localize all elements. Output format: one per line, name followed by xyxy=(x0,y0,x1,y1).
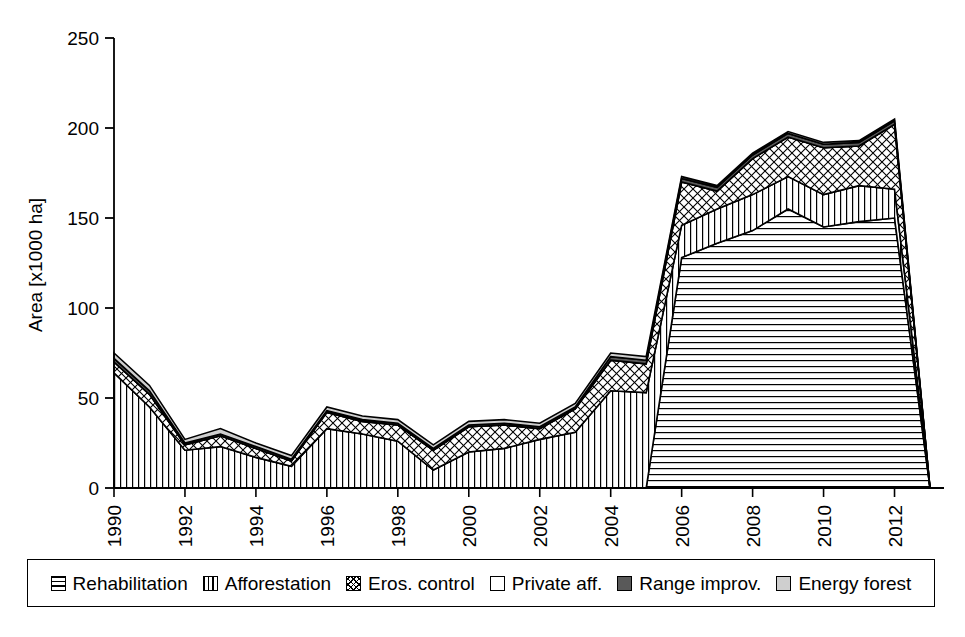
x-tick-label: 1998 xyxy=(388,505,409,547)
crosshatch-swatch xyxy=(346,576,361,591)
white-swatch xyxy=(490,576,505,591)
x-axis-ticks: 1990199219941996199820002002200420062008… xyxy=(104,488,906,547)
y-tick-label: 250 xyxy=(67,28,99,49)
chart-canvas: 050100150200250 199019921994199619982000… xyxy=(0,0,965,637)
legend-label: Range improv. xyxy=(639,574,761,593)
x-tick-label: 2002 xyxy=(530,505,551,547)
y-tick-label: 50 xyxy=(78,388,99,409)
x-tick-label: 2008 xyxy=(743,505,764,547)
x-tick-label: 1994 xyxy=(246,505,267,548)
y-tick-label: 200 xyxy=(67,118,99,139)
x-tick-label: 2010 xyxy=(814,505,835,547)
legend-label: Private aff. xyxy=(512,574,602,593)
y-tick-label: 100 xyxy=(67,298,99,319)
horizontal-lines-swatch xyxy=(51,576,66,591)
legend-label: Eros. control xyxy=(368,574,475,593)
legend-item-rehabilitation[interactable]: Rehabilitation xyxy=(51,574,188,593)
chart-legend: RehabilitationAfforestationEros. control… xyxy=(27,559,935,607)
legend-item-range-improv[interactable]: Range improv. xyxy=(617,574,761,593)
legend-item-private-aff[interactable]: Private aff. xyxy=(490,574,602,593)
y-axis-ticks: 050100150200250 xyxy=(67,28,114,499)
area-chart: 050100150200250 199019921994199619982000… xyxy=(0,0,965,637)
y-tick-label: 150 xyxy=(67,208,99,229)
legend-item-energy-forest[interactable]: Energy forest xyxy=(776,574,911,593)
x-tick-label: 2006 xyxy=(672,505,693,547)
x-tick-label: 1996 xyxy=(317,505,338,547)
vertical-lines-swatch xyxy=(203,576,218,591)
x-tick-label: 2012 xyxy=(885,505,906,547)
y-tick-label: 0 xyxy=(88,478,99,499)
legend-label: Rehabilitation xyxy=(73,574,188,593)
x-tick-label: 2004 xyxy=(601,505,622,548)
x-tick-label: 2000 xyxy=(459,505,480,547)
legend-label: Energy forest xyxy=(798,574,911,593)
legend-item-eros-control[interactable]: Eros. control xyxy=(346,574,475,593)
legend-label: Afforestation xyxy=(225,574,331,593)
y-axis-label: Area [x1000 ha] xyxy=(25,198,46,332)
series-areas xyxy=(114,119,930,488)
dark-gray-swatch xyxy=(617,576,632,591)
x-tick-label: 1990 xyxy=(104,505,125,547)
light-gray-swatch xyxy=(776,576,791,591)
legend-item-afforestation[interactable]: Afforestation xyxy=(203,574,331,593)
x-tick-label: 1992 xyxy=(175,505,196,547)
